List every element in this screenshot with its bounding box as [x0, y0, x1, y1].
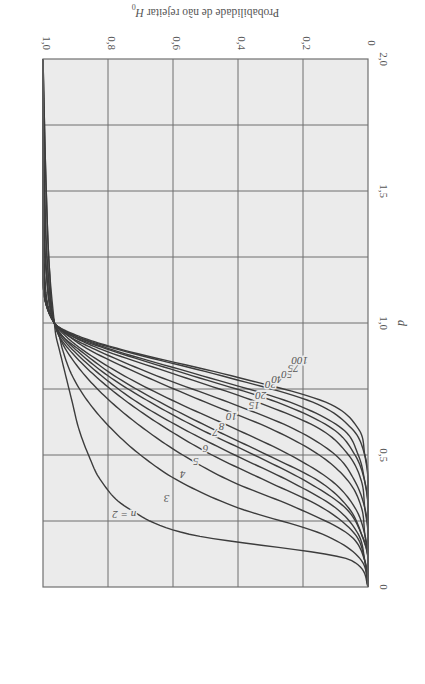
y-axis-ticks: 00,20,40,60,81,0: [41, 36, 378, 50]
x-axis-ticks: 00,51,01,52,0: [378, 52, 390, 590]
curve-label: 6: [202, 443, 208, 455]
oc-curve-chart: n = 234567810152030405075100 00,51,01,52…: [0, 0, 425, 684]
chart-canvas: n = 234567810152030405075100 00,51,01,52…: [0, 0, 425, 684]
x-axis-label: d: [395, 320, 409, 327]
y-tick-label: 0,8: [106, 36, 118, 50]
x-tick-label: 2,0: [378, 52, 390, 66]
y-axis-label-main: Probabilidade de não rejeitar: [144, 6, 279, 19]
y-axis-label: Probabilidade de não rejeitar H0: [132, 3, 280, 20]
curve-label: 3: [163, 493, 170, 505]
rotated-figure: n = 234567810152030405075100 00,51,01,52…: [41, 3, 409, 591]
curve-label: 7: [212, 427, 218, 439]
curve-label: 100: [291, 355, 308, 367]
y-tick-label: 0,4: [236, 36, 248, 50]
x-tick-label: 1,5: [378, 184, 390, 198]
curve-label: 40: [271, 374, 283, 386]
y-tick-label: 0,6: [171, 36, 183, 50]
y-axis-label-subscript: 0: [132, 3, 136, 12]
x-tick-label: 0,5: [378, 448, 390, 462]
curve-label: 8: [219, 421, 225, 433]
curve-label: n = 2: [112, 509, 136, 521]
curve-label: 10: [226, 411, 238, 423]
curve-label: 4: [180, 469, 186, 481]
x-tick-label: 1,0: [378, 316, 390, 330]
x-tick-label: 0: [378, 584, 390, 590]
curve-label: 20: [255, 390, 267, 402]
y-tick-label: 0,2: [301, 36, 313, 50]
y-tick-label: 0: [366, 40, 378, 46]
curve-label: 5: [193, 456, 199, 468]
y-tick-label: 1,0: [41, 36, 53, 50]
